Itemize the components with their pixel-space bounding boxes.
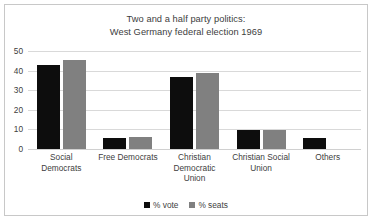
bar-group [28,51,95,149]
y-tick-label-50: 50 [14,46,23,56]
x-axis-label-line: Social Democrats [29,152,94,173]
x-axis-label-line: Union [229,163,294,174]
bar [129,137,152,149]
bar [37,65,60,149]
bar-group [228,51,295,149]
chart-title: Two and a half party politics: West Germ… [5,13,367,38]
legend-swatch-icon [144,202,150,208]
x-axis-label-line: Others [295,152,360,163]
bar [237,130,260,149]
x-axis-label: Christian SocialUnion [228,152,295,184]
chart-screenshot: Two and a half party politics: West Germ… [0,0,373,224]
y-tick-label-40: 40 [14,66,23,76]
bar [303,138,326,149]
y-tick-label-0: 0 [18,144,23,154]
legend-label: % vote [153,200,178,210]
chart-title-line-1: Two and a half party politics: [5,13,367,26]
legend-swatch-icon [189,202,195,208]
bar [263,130,286,149]
x-axis-labels: Social DemocratsFree DemocratsChristianD… [28,152,361,184]
x-axis-label: Free Democrats [95,152,162,184]
x-axis-label: Social Democrats [28,152,95,184]
x-axis-label-line: Free Democrats [96,152,161,163]
x-axis-label: ChristianDemocraticUnion [161,152,228,184]
gridline-0 [28,149,361,150]
x-axis-label: Others [294,152,361,184]
legend-item[interactable]: % seats [189,200,228,210]
bar-group [294,51,361,149]
x-axis-label-line: Union [162,173,227,184]
bar [170,77,193,149]
y-tick-label-20: 20 [14,105,23,115]
chart-title-line-2: West Germany federal election 1969 [5,26,367,39]
plot-area: 50403020100 [28,51,361,149]
x-axis-label-line: Christian Social [229,152,294,163]
chart-frame: Two and a half party politics: West Germ… [4,4,368,216]
y-tick-label-30: 30 [14,85,23,95]
x-axis-label-line: Democratic [162,163,227,174]
bar [103,138,126,149]
bar-group [161,51,228,149]
bars-layer [28,51,361,149]
legend-item[interactable]: % vote [144,200,178,210]
bar [63,60,86,149]
bar [196,73,219,149]
x-axis-label-line: Christian [162,152,227,163]
bar-group [95,51,162,149]
y-tick-label-10: 10 [14,124,23,134]
chart-legend: % vote% seats [5,200,367,210]
legend-label: % seats [198,200,228,210]
